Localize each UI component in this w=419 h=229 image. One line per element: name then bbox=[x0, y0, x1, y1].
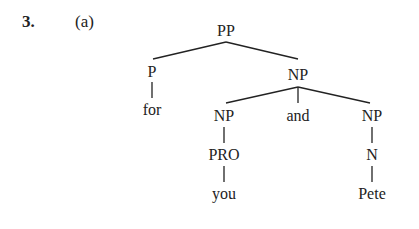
node-np-right: NP bbox=[362, 107, 383, 124]
syntax-tree: PP P NP for NP and NP PRO N you Pete bbox=[0, 0, 419, 229]
node-np-left: NP bbox=[214, 107, 235, 124]
node-pete: Pete bbox=[358, 185, 386, 202]
node-np-top: NP bbox=[288, 66, 309, 83]
edge-np-npleft bbox=[226, 87, 298, 103]
node-and: and bbox=[286, 107, 309, 124]
edge-pp-p bbox=[153, 42, 226, 59]
node-you: you bbox=[212, 185, 236, 203]
node-for: for bbox=[143, 101, 162, 118]
edge-np-npright bbox=[298, 87, 370, 103]
node-pp: PP bbox=[217, 22, 235, 39]
node-pro: PRO bbox=[208, 146, 239, 163]
node-p: P bbox=[148, 63, 157, 80]
node-n: N bbox=[366, 146, 378, 163]
edge-pp-np bbox=[226, 42, 298, 59]
